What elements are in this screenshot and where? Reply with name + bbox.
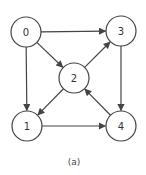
edge-2-to-1 <box>38 89 64 115</box>
node-label: 4 <box>118 121 124 132</box>
node-1: 1 <box>12 111 42 141</box>
node-group: 01234 <box>11 16 136 141</box>
node-label: 2 <box>71 73 77 84</box>
edge-2-to-3 <box>85 42 110 67</box>
node-label: 3 <box>118 26 124 37</box>
directed-graph: 01234 (a) <box>0 0 146 175</box>
edge-4-to-2 <box>85 89 111 115</box>
edge-0-to-3 <box>41 31 106 32</box>
node-label: 1 <box>24 121 30 132</box>
node-4: 4 <box>106 111 136 141</box>
edge-0-to-2 <box>37 42 63 67</box>
node-0: 0 <box>11 17 41 47</box>
node-label: 0 <box>23 27 29 38</box>
edge-0-to-1 <box>26 47 27 111</box>
node-3: 3 <box>106 16 136 46</box>
figure-caption: (a) <box>68 157 81 167</box>
node-2: 2 <box>59 63 89 93</box>
